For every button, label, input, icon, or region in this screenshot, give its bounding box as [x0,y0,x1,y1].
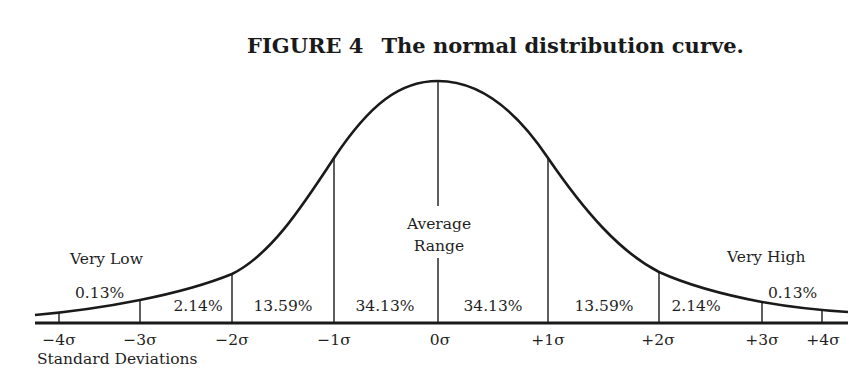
bell-curve [35,81,848,315]
tick-zero: 0σ [430,331,450,349]
tick-minus-2: −2σ [215,331,248,349]
tick-minus-1: −1σ [317,331,350,349]
pct-m1-0: 34.13% [355,297,414,315]
pct-p2-p3: 2.14% [671,297,720,315]
average-range-label: Average Range [407,213,471,257]
tick-minus-3: −3σ [123,331,156,349]
curve-plot [0,0,855,384]
average-range-line2: Range [407,235,471,257]
pct-p1-p2: 13.59% [574,297,633,315]
tick-minus-4: −4σ [42,331,75,349]
average-range-line1: Average [407,213,471,235]
pct-0-p1: 34.13% [463,297,522,315]
tick-plus-3: +3σ [745,331,778,349]
tick-plus-2: +2σ [641,331,674,349]
pct-tail-high: 0.13% [768,284,817,302]
pct-m2-m1: 13.59% [253,297,312,315]
very-high-label: Very High [727,248,805,266]
axis-title: Standard Deviations [37,350,198,368]
very-low-label: Very Low [70,250,143,268]
pct-tail-low: 0.13% [75,284,124,302]
tick-plus-1: +1σ [531,331,564,349]
normal-distribution-figure: FIGURE 4The normal distribution curve. V… [0,0,855,384]
pct-m3-m2: 2.14% [173,297,222,315]
tick-plus-4: +4σ [806,331,839,349]
